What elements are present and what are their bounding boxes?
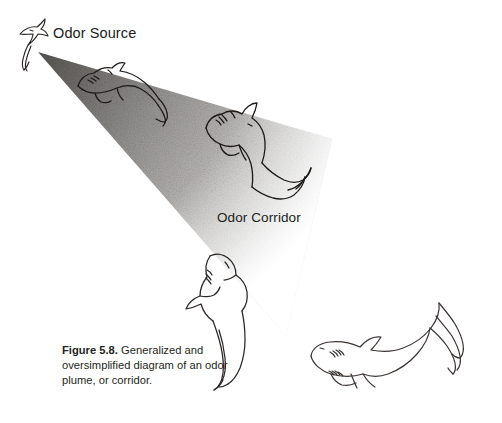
figure-caption: Figure 5.8. Generalized and oversimplifi… xyxy=(62,343,237,389)
shark-outside-plume xyxy=(311,303,463,388)
figure-caption-number: Figure 5.8. xyxy=(62,344,118,356)
shark-at-source xyxy=(20,19,48,71)
odor-source-label: Odor Source xyxy=(53,25,136,41)
odor-corridor-label: Odor Corridor xyxy=(217,210,301,225)
figure-root: Odor Source Odor Corridor Figure 5.8. Ge… xyxy=(0,0,502,423)
